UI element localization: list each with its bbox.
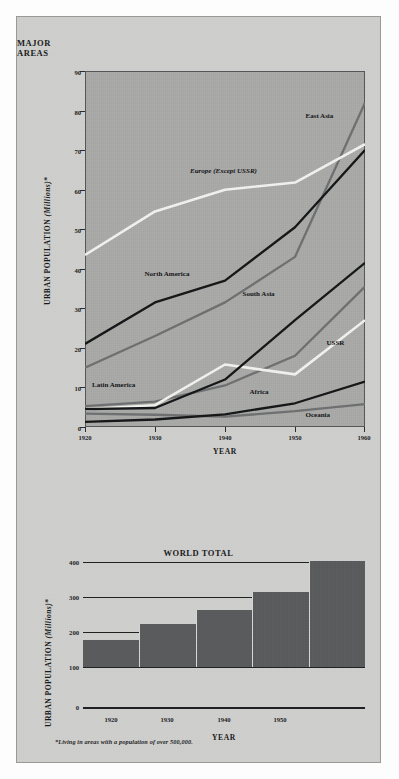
figure-plate: MAJOR AREAS URBAN POPULATION (Millions)*… — [16, 16, 381, 763]
x-tick-1940: 1940 — [210, 434, 240, 441]
bar-x-tick-1920: 1920 — [96, 716, 126, 723]
series-label-south-asia: South Asia — [243, 290, 275, 298]
x-tick-1960: 1960 — [349, 434, 379, 441]
x-tickmark — [225, 427, 226, 432]
y-tick-30: 30 — [61, 306, 81, 313]
x-tickmark — [155, 427, 156, 432]
y-tick-90: 90 — [61, 69, 81, 76]
x-tick-1950: 1950 — [280, 434, 310, 441]
bar-y-tick-400: 400 — [57, 559, 79, 566]
y-tick-70: 70 — [61, 148, 81, 155]
x-tick-1930: 1930 — [140, 434, 170, 441]
series-label-oceania: Oceania — [306, 411, 331, 419]
series-label-east-asia: East Asia — [306, 112, 334, 120]
y-tick-0: 0 — [61, 424, 81, 431]
line-chart-x-axis-label: YEAR — [85, 447, 365, 456]
y-tick-50: 50 — [61, 227, 81, 234]
y-tick-80: 80 — [61, 108, 81, 115]
line-chart-annotation-layer: East AsiaEurope (Except USSR)North Ameri… — [85, 71, 365, 427]
bar-1920 — [83, 640, 139, 667]
bar-separator — [309, 561, 310, 667]
bar-1950 — [252, 592, 308, 667]
series-label-europe-except-ussr: Europe (Except USSR) — [190, 167, 257, 175]
figure-page: MAJOR AREAS URBAN POPULATION (Millions)*… — [0, 0, 399, 779]
bar-separator — [139, 624, 140, 667]
bar-x-tick-1930: 1930 — [152, 716, 182, 723]
y-tick-60: 60 — [61, 187, 81, 194]
bar-1940 — [196, 610, 252, 667]
bar-1930 — [139, 624, 195, 667]
bar-chart-y-axis-label: URBAN POPULATION (Millions)* — [44, 577, 53, 727]
series-label-ussr: USSR — [327, 339, 345, 347]
y-tick-40: 40 — [61, 266, 81, 273]
bar-chart-bars-layer — [83, 542, 365, 707]
bar-separator — [196, 610, 197, 667]
series-label-north-america: North America — [145, 270, 190, 278]
y-tick-20: 20 — [61, 345, 81, 352]
line-chart-y-axis-label: URBAN POPULATION (Millions)* — [43, 145, 52, 305]
bar-y-tick-300: 300 — [57, 594, 79, 601]
y-tick-10: 10 — [61, 385, 81, 392]
series-label-africa: Africa — [250, 388, 269, 396]
bar-chart-baseline — [83, 707, 365, 709]
x-tickmark — [364, 427, 365, 432]
bar-x-tick-1940: 1940 — [209, 716, 239, 723]
x-tick-1920: 1920 — [70, 434, 100, 441]
figure-footnote: *Living in areas with a population of ov… — [55, 738, 193, 745]
bar-x-tick-1950: 1950 — [265, 716, 295, 723]
series-label-latin-america: Latin America — [92, 381, 135, 389]
bar-y-tick-0: 0 — [57, 704, 79, 711]
bar-separator — [252, 592, 253, 667]
x-tickmark — [295, 427, 296, 432]
bar-y-tick-100: 100 — [57, 664, 79, 671]
bar-1960 — [309, 561, 365, 667]
bar-y-tick-200: 200 — [57, 629, 79, 636]
x-tickmark — [85, 427, 86, 432]
